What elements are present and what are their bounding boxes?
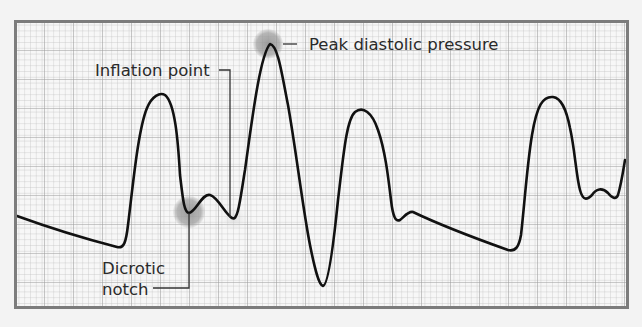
peak-diastolic-label: Peak diastolic pressure	[309, 35, 499, 54]
dicrotic-notch-label-line2: notch	[102, 280, 149, 299]
inflation-point-label: Inflation point	[95, 61, 210, 80]
arterial-waveform-diagram: Peak diastolic pressure Inflation point …	[0, 0, 642, 327]
dicrotic-notch-label-line1: Dicrotic	[102, 259, 165, 278]
